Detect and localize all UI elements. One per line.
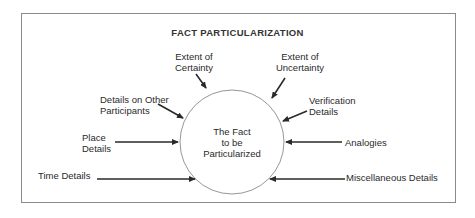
label-misc-details: Miscellaneous Details (346, 172, 438, 183)
arrow-certainty (196, 74, 206, 88)
label-line: Participants (100, 105, 169, 116)
arrow-verification (283, 111, 307, 121)
label-analogies: Analogies (345, 137, 387, 148)
label-other-participants: Details on Other Participants (100, 94, 169, 116)
label-line: Details on Other (100, 94, 169, 105)
label-time-details: Time Details (38, 170, 90, 181)
center-line-1: The Fact (182, 126, 282, 137)
label-line: Details (82, 143, 111, 154)
label-line: Extent of (162, 51, 226, 62)
center-label: The Fact to be Particularized (182, 126, 282, 159)
center-line-2: to be (182, 137, 282, 148)
label-line: Time Details (38, 170, 90, 181)
label-line: Place (82, 132, 111, 143)
label-place-details: Place Details (82, 132, 111, 154)
label-verification: Verification Details (309, 95, 355, 117)
center-line-3: Particularized (182, 148, 282, 159)
label-line: Analogies (345, 137, 387, 148)
label-line: Certainty (162, 62, 226, 73)
label-line: Extent of (264, 51, 336, 62)
label-extent-certainty: Extent of Certainty (162, 51, 226, 73)
label-line: Uncertainty (264, 62, 336, 73)
label-line: Details (309, 106, 355, 117)
label-line: Verification (309, 95, 355, 106)
arrow-uncertainty (272, 78, 285, 98)
diagram-title: FACT PARTICULARIZATION (0, 27, 475, 38)
label-line: Miscellaneous Details (346, 172, 438, 183)
label-extent-uncertainty: Extent of Uncertainty (264, 51, 336, 73)
